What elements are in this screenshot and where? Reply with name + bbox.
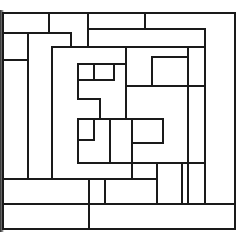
partition-lines (3, 13, 235, 229)
outer-frame (3, 13, 235, 229)
partition-diagram (0, 0, 249, 246)
